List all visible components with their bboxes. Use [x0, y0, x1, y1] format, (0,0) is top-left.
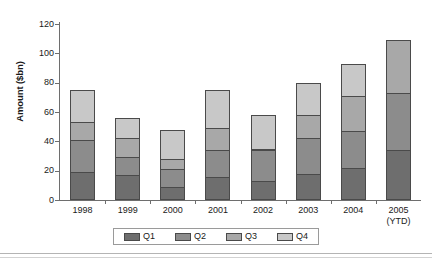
- bar-segment-q1: [251, 181, 276, 200]
- bar-group: [376, 24, 421, 200]
- y-tick-label: 20: [28, 166, 54, 175]
- y-tick-label: 0: [28, 196, 54, 205]
- bar-segment-q4: [341, 64, 366, 96]
- plot-area: [60, 24, 421, 200]
- bar-segment-q3: [205, 128, 230, 150]
- bar-group: [286, 24, 331, 200]
- bar-segment-q4: [296, 83, 321, 115]
- bar-segment-q2: [251, 150, 276, 181]
- legend-label: Q1: [143, 232, 155, 241]
- y-tick-mark: [55, 171, 59, 172]
- bar-segment-q2: [160, 169, 185, 187]
- bar-segment-q4: [251, 115, 276, 149]
- x-tick-sublabel: (YTD): [376, 216, 421, 227]
- legend-item-q3: Q3: [226, 232, 257, 241]
- legend-label: Q2: [194, 232, 206, 241]
- legend-swatch-q3: [226, 233, 242, 241]
- y-tick-label: 120: [28, 20, 54, 29]
- x-tick-label: 1998: [60, 205, 105, 216]
- x-tick-label: 2000: [150, 205, 195, 216]
- bar-segment-q1: [386, 150, 411, 200]
- stacked-bar: [341, 64, 366, 200]
- bar-segment-q1: [115, 175, 140, 200]
- legend-swatch-q4: [277, 233, 293, 241]
- bar-segment-q2: [386, 93, 411, 150]
- bar-group: [150, 24, 195, 200]
- stacked-bar: [160, 130, 185, 200]
- y-tick-label: 60: [28, 108, 54, 117]
- y-tick-mark: [55, 141, 59, 142]
- legend-item-q1: Q1: [124, 232, 155, 241]
- y-tick-label: 100: [28, 49, 54, 58]
- legend-label: Q3: [245, 232, 257, 241]
- bar-segment-q3: [296, 115, 321, 138]
- legend-swatch-q2: [175, 233, 191, 241]
- bar-segment-q3: [115, 138, 140, 157]
- x-tick-mark: [286, 200, 287, 204]
- bar-group: [60, 24, 105, 200]
- stacked-bar: [386, 40, 411, 200]
- bar-segment-q4: [115, 118, 140, 139]
- legend-item-q4: Q4: [277, 232, 308, 241]
- bar-segment-q1: [341, 168, 366, 200]
- y-tick-mark: [55, 83, 59, 84]
- stacked-bar: [296, 83, 321, 200]
- stacked-bar: [251, 115, 276, 200]
- bar-segment-q3: [160, 159, 185, 169]
- bar-segment-q2: [296, 138, 321, 173]
- x-tick-label: 2003: [286, 205, 331, 216]
- x-tick-mark: [376, 200, 377, 204]
- bar-segment-q4: [205, 90, 230, 128]
- x-tick-label: 1999: [105, 205, 150, 216]
- bar-segment-q1: [160, 187, 185, 200]
- x-tick-mark: [331, 200, 332, 204]
- y-tick-label: 40: [28, 137, 54, 146]
- bar-group: [331, 24, 376, 200]
- stacked-bar: [115, 118, 140, 200]
- bar-segment-q1: [205, 177, 230, 200]
- bar-segment-q2: [205, 150, 230, 176]
- stacked-bar: [70, 90, 95, 200]
- x-tick-label: 2002: [241, 205, 286, 216]
- bar-segment-q3: [386, 40, 411, 93]
- divider-rule-top: [0, 253, 432, 254]
- divider-rule-bottom: [0, 257, 432, 258]
- legend-item-q2: Q2: [175, 232, 206, 241]
- y-axis-tick-labels: 020406080100120: [28, 0, 54, 266]
- bar-segment-q1: [296, 174, 321, 200]
- x-tick-label: 2001: [195, 205, 240, 216]
- x-tick-mark: [195, 200, 196, 204]
- bar-segment-q2: [70, 140, 95, 172]
- stacked-bar: [205, 90, 230, 200]
- y-tick-mark: [55, 112, 59, 113]
- bar-segment-q3: [341, 96, 366, 131]
- bar-segment-q1: [70, 172, 95, 200]
- legend-label: Q4: [296, 232, 308, 241]
- bar-segment-q2: [115, 157, 140, 175]
- y-tick-mark: [55, 24, 59, 25]
- y-axis-title: Amount ($bn): [14, 47, 25, 137]
- stacked-bar-chart: Amount ($bn) 020406080100120 19981999200…: [0, 0, 432, 266]
- x-tick-label: 2005(YTD): [376, 205, 421, 227]
- bar-segment-q2: [341, 131, 366, 168]
- bar-segment-q4: [70, 90, 95, 122]
- x-tick-mark: [150, 200, 151, 204]
- legend-swatch-q1: [124, 233, 140, 241]
- bar-segment-q4: [160, 130, 185, 159]
- x-tick-mark: [241, 200, 242, 204]
- chart-legend: Q1Q2Q3Q4: [113, 228, 319, 245]
- x-tick-label: 2004: [331, 205, 376, 216]
- x-tick-mark: [105, 200, 106, 204]
- y-tick-mark: [55, 200, 59, 201]
- bar-group: [195, 24, 240, 200]
- bar-group: [105, 24, 150, 200]
- bar-segment-q3: [70, 122, 95, 140]
- bar-group: [241, 24, 286, 200]
- y-tick-mark: [55, 53, 59, 54]
- y-tick-label: 80: [28, 78, 54, 87]
